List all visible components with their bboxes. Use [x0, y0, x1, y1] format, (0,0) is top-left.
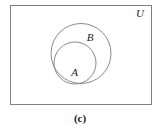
- universal-set-label: U: [136, 7, 145, 19]
- set-a-label: A: [70, 66, 78, 78]
- set-b-label: B: [87, 31, 94, 43]
- venn-diagram-figure: U B A (c): [0, 0, 160, 134]
- universal-set-rectangle: [11, 6, 152, 105]
- figure-caption: (c): [0, 111, 160, 125]
- venn-diagram-canvas: U B A: [0, 0, 160, 111]
